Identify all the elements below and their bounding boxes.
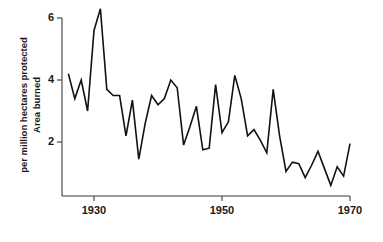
data-series-line: [68, 9, 350, 186]
y-axis-title-line-1: Area burned: [31, 77, 42, 133]
y-axis-title: Area burned per million hectares protect…: [18, 37, 42, 173]
x-tick-label-1930: 1930: [82, 204, 106, 216]
x-axis-ticks: 193019501970: [82, 196, 362, 216]
y-axis-ticks: 642: [48, 11, 62, 147]
chart-canvas: 642 193019501970 Area burned per million…: [0, 0, 383, 242]
y-tick-label-2: 2: [48, 135, 54, 147]
x-tick-label-1950: 1950: [210, 204, 234, 216]
x-tick-label-1970: 1970: [338, 204, 362, 216]
chart-figure: 642 193019501970 Area burned per million…: [0, 0, 383, 242]
y-tick-label-6: 6: [48, 11, 54, 23]
y-tick-label-4: 4: [48, 73, 55, 85]
y-axis-title-line-2: per million hectares protected: [18, 37, 29, 173]
